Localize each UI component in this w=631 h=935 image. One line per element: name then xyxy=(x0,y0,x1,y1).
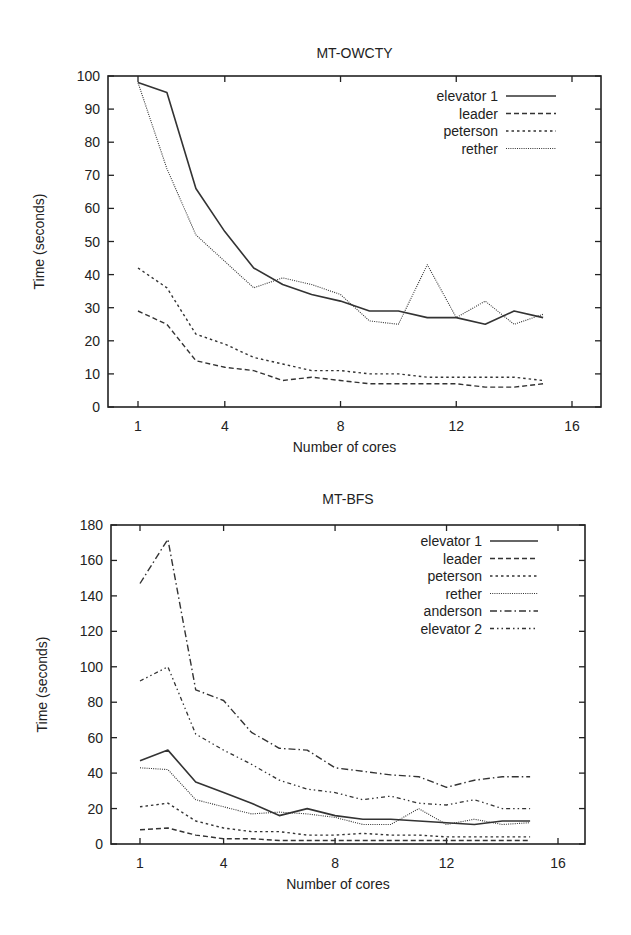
y-tick-label: 100 xyxy=(80,659,104,675)
y-tick-label: 60 xyxy=(87,730,103,746)
y-tick-label: 180 xyxy=(80,517,104,533)
x-axis-label: Number of cores xyxy=(293,439,396,455)
x-tick-label: 12 xyxy=(439,855,455,871)
y-tick-label: 40 xyxy=(84,267,100,283)
y-tick-label: 0 xyxy=(92,399,100,415)
legend-label: elevator 2 xyxy=(421,621,483,637)
x-axis-label: Number of cores xyxy=(286,876,389,892)
chart-1: MT-OWCTY01020304050607080901001481216Num… xyxy=(31,45,601,455)
y-tick-label: 70 xyxy=(84,167,100,183)
y-tick-label: 20 xyxy=(87,801,103,817)
legend-label: rether xyxy=(445,586,482,602)
y-tick-label: 0 xyxy=(95,836,103,852)
legend-label: elevator 1 xyxy=(421,533,483,549)
x-tick-label: 4 xyxy=(220,855,228,871)
chart-title: MT-BFS xyxy=(322,491,373,507)
legend-label: elevator 1 xyxy=(437,88,499,104)
figure-canvas: MT-OWCTY01020304050607080901001481216Num… xyxy=(0,0,631,935)
y-tick-label: 90 xyxy=(84,101,100,117)
x-tick-label: 16 xyxy=(550,855,566,871)
y-tick-label: 120 xyxy=(80,623,104,639)
y-axis-label: Time (seconds) xyxy=(34,637,50,733)
y-axis-label: Time (seconds) xyxy=(31,194,47,290)
plot-frame xyxy=(111,525,585,844)
y-tick-label: 20 xyxy=(84,333,100,349)
y-tick-label: 30 xyxy=(84,300,100,316)
plot-frame xyxy=(108,76,601,407)
series-line-leader xyxy=(138,311,543,387)
legend-label: anderson xyxy=(424,603,482,619)
y-tick-label: 10 xyxy=(84,366,100,382)
y-tick-label: 140 xyxy=(80,588,104,604)
x-tick-label: 1 xyxy=(136,855,144,871)
legend-label: leader xyxy=(443,551,482,567)
legend-label: rether xyxy=(461,141,498,157)
y-tick-label: 40 xyxy=(87,765,103,781)
x-tick-label: 8 xyxy=(331,855,339,871)
y-tick-label: 160 xyxy=(80,552,104,568)
x-tick-label: 1 xyxy=(134,418,142,434)
y-tick-label: 80 xyxy=(84,134,100,150)
x-tick-label: 12 xyxy=(448,418,464,434)
x-tick-label: 4 xyxy=(221,418,229,434)
y-tick-label: 50 xyxy=(84,234,100,250)
legend-label: peterson xyxy=(444,123,498,139)
y-tick-label: 100 xyxy=(77,68,101,84)
chart-title: MT-OWCTY xyxy=(316,45,393,61)
series-line-elevator-1 xyxy=(140,750,530,824)
legend-label: peterson xyxy=(428,568,482,584)
series-line-elevator-2 xyxy=(140,667,530,809)
y-tick-label: 60 xyxy=(84,200,100,216)
y-tick-label: 80 xyxy=(87,694,103,710)
x-tick-label: 8 xyxy=(337,418,345,434)
legend-label: leader xyxy=(459,106,498,122)
x-tick-label: 16 xyxy=(564,418,580,434)
chart-2: MT-BFS0204060801001201401601801481216Num… xyxy=(34,491,585,892)
